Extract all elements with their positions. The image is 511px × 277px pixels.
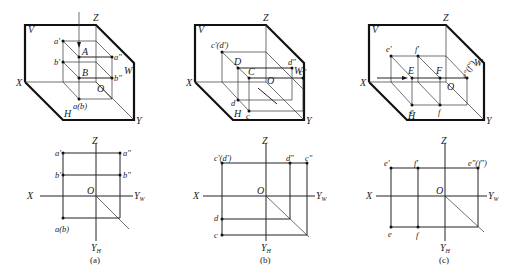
label-z: Z <box>93 12 99 23</box>
label-origin: O <box>87 185 94 196</box>
label-z: Z <box>441 135 447 146</box>
label-x: X <box>192 190 200 201</box>
caption-b: (b) <box>260 255 271 265</box>
label-yh: YH <box>440 242 451 254</box>
label-a-b-horizontal: a(b) <box>55 224 69 234</box>
label-point-C: C <box>248 66 255 77</box>
panel-b-orthographic: Z X O YW YH c'(d') d" c" d c (b) <box>192 135 328 265</box>
label-y: Y <box>486 115 493 126</box>
panel-a-orthographic: Z X O YW YH a' a" b' b" a(b) (a) <box>26 135 146 265</box>
label-a-double-prime: a" <box>123 148 131 158</box>
label-a-b-horizontal: a(b) <box>73 101 87 111</box>
panel-a-pictorial: V Z X W H Y O A B a' b' a" b" a(b) <box>15 12 143 126</box>
label-c-double-prime: c" <box>299 67 307 77</box>
label-point-D: D <box>233 56 242 67</box>
label-yw: YW <box>488 190 500 202</box>
caption-a: (a) <box>90 255 100 265</box>
label-f-horizontal: f <box>438 107 442 117</box>
label-origin: O <box>267 75 274 86</box>
label-z: Z <box>92 135 98 146</box>
label-f-horizontal: f <box>416 230 420 240</box>
label-f-prime: f' <box>414 158 418 168</box>
label-yh: YH <box>261 242 272 254</box>
label-yw: YW <box>316 190 328 202</box>
label-z: Z <box>263 12 269 23</box>
label-x: X <box>26 190 34 201</box>
label-b-double-prime: b" <box>123 170 131 180</box>
label-c-horizontal: c <box>246 111 250 121</box>
label-f-prime: f' <box>415 44 419 54</box>
label-y: Y <box>306 115 313 126</box>
label-origin: O <box>97 83 104 94</box>
label-c-prime-d-prime: c'(d') <box>214 153 231 163</box>
label-e-prime: e' <box>384 158 390 168</box>
label-z: Z <box>262 135 268 146</box>
label-a-double-prime: a" <box>114 52 122 62</box>
label-d-double-prime: d" <box>286 153 294 163</box>
label-y: Y <box>136 115 143 126</box>
panel-c-orthographic: Z X O YW YH e' f' e"(f") e f (c) <box>365 135 500 265</box>
label-x: X <box>15 77 23 88</box>
label-e-horizontal: e <box>410 106 414 116</box>
label-x: X <box>359 77 367 88</box>
label-d-horizontal: d <box>214 213 219 223</box>
label-yh: YH <box>91 242 102 254</box>
label-point-A: A <box>81 46 89 57</box>
label-a-prime: a' <box>54 36 60 46</box>
label-d-horizontal: d <box>231 98 236 108</box>
label-d-double-prime: d" <box>288 57 296 67</box>
label-a-prime: a' <box>55 148 61 158</box>
label-b-prime: b' <box>55 170 61 180</box>
label-point-B: B <box>82 67 88 78</box>
label-h-plane: H <box>233 108 242 119</box>
label-w-plane: W <box>124 65 134 76</box>
label-yw: YW <box>134 190 146 202</box>
label-h-plane: H <box>63 108 72 119</box>
label-e-f-double-prime: e"(f") <box>468 158 487 168</box>
arrow-down-icon <box>77 42 81 48</box>
label-z: Z <box>443 12 449 23</box>
45-degree-line <box>96 196 129 229</box>
label-c-horizontal: c <box>214 230 218 240</box>
label-x: X <box>365 190 373 201</box>
panel-b-pictorial: V Z X W H Y O D C c'(d') d" c" d c <box>185 12 313 126</box>
label-point-E: E <box>407 65 414 76</box>
arrow-right-icon <box>402 76 408 80</box>
projection-figure: V Z X W H Y O A B a' b' a" b" a(b) <box>0 0 511 277</box>
label-origin: O <box>257 185 264 196</box>
label-b-prime: b' <box>54 57 60 67</box>
label-e-horizontal: e <box>388 229 392 239</box>
label-c-prime-d-prime: c'(d') <box>211 40 228 50</box>
label-origin: O <box>436 185 443 196</box>
label-origin: O <box>447 81 454 92</box>
label-x: X <box>185 77 193 88</box>
label-point-F: F <box>435 65 443 76</box>
caption-c: (c) <box>439 255 449 265</box>
panel-c-pictorial: V Z X W H Y O E F e' f' e"(f") e f <box>359 12 493 126</box>
label-c-double-prime: c" <box>305 153 313 163</box>
label-b-double-prime: b" <box>114 73 122 83</box>
label-e-prime: e' <box>386 44 392 54</box>
